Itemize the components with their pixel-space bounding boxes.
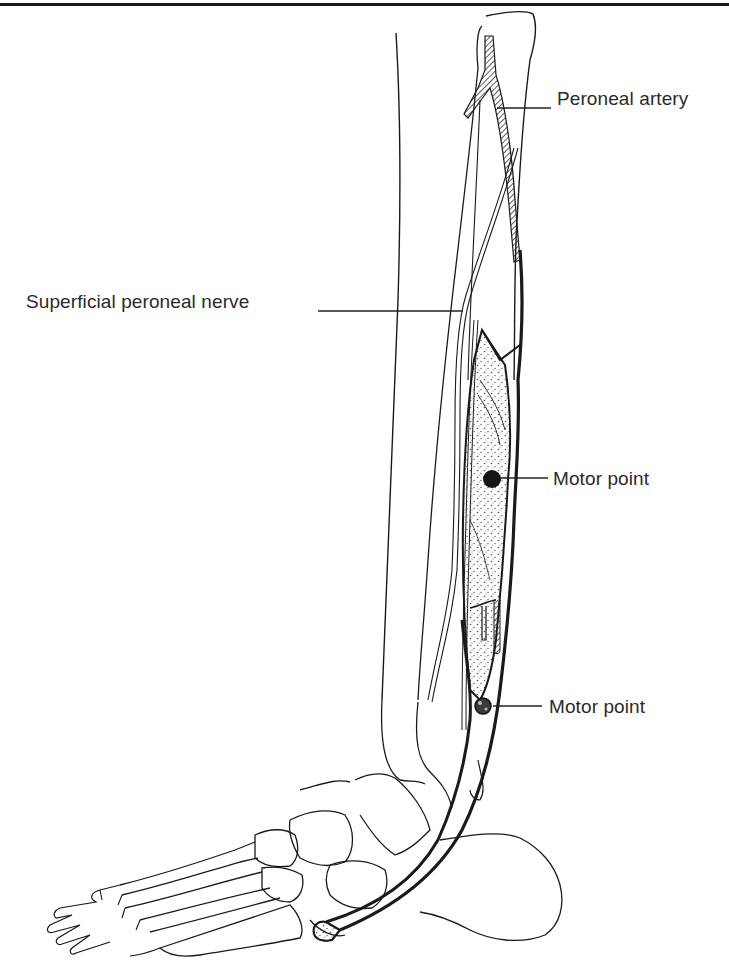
metatarsal-3 bbox=[140, 888, 270, 920]
cuneiform-1 bbox=[255, 830, 298, 867]
navicular bbox=[289, 811, 352, 866]
tendon-insertion bbox=[314, 922, 340, 941]
lateral-malleolus bbox=[382, 700, 425, 784]
calcaneus bbox=[420, 834, 562, 941]
motor-point-lower-dot bbox=[475, 698, 491, 714]
leg-posterior-outline bbox=[382, 33, 400, 700]
metatarsal-5 bbox=[160, 905, 302, 956]
label-motor-point-lower: Motor point bbox=[549, 696, 645, 718]
talus bbox=[355, 774, 430, 855]
metatarsal-2 bbox=[125, 872, 262, 908]
label-peroneal-artery: Peroneal artery bbox=[557, 88, 688, 110]
phalanges bbox=[47, 885, 120, 954]
peroneus-tendon-inner bbox=[326, 620, 470, 922]
label-superficial-peroneal-nerve: Superficial peroneal nerve bbox=[26, 291, 249, 313]
cuneiform-2 bbox=[262, 867, 303, 902]
muscle-belly bbox=[463, 330, 510, 700]
label-motor-point-upper: Motor point bbox=[553, 468, 649, 490]
motor-point-upper-dot bbox=[483, 470, 501, 488]
peroneal-artery bbox=[464, 36, 520, 262]
